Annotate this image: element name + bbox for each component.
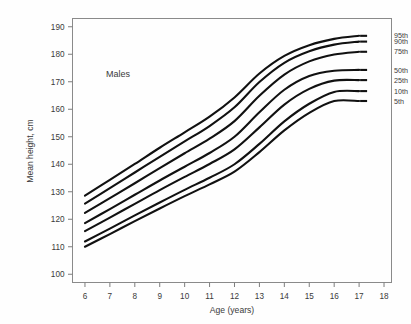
y-tick-label: 140 <box>51 160 65 169</box>
legend-label-50th: 50th <box>394 66 408 75</box>
percentile-legend: 95th90th75th50th25th10th5th <box>360 31 408 105</box>
legend-label-25th: 25th <box>394 76 408 85</box>
y-tick-label: 150 <box>51 133 65 142</box>
y-tick-label: 100 <box>51 270 65 279</box>
y-axis-tick-labels: 100110120130140150160170180190 <box>51 23 65 280</box>
percentile-curves <box>85 36 359 247</box>
y-tick-label: 180 <box>51 50 65 59</box>
legend-label-75th: 75th <box>394 47 408 56</box>
x-tick-label: 6 <box>83 292 88 301</box>
x-tick-label: 12 <box>230 292 240 301</box>
x-tick-label: 16 <box>330 292 340 301</box>
x-tick-label: 18 <box>379 292 389 301</box>
x-tick-label: 15 <box>305 292 315 301</box>
y-tick-label: 170 <box>51 78 65 87</box>
legend-label-90th: 90th <box>394 37 408 46</box>
x-tick-label: 13 <box>255 292 265 301</box>
x-tick-label: 7 <box>108 292 113 301</box>
x-tick-label: 8 <box>133 292 138 301</box>
x-axis-tick-labels: 6789101112131415161718 <box>83 292 389 301</box>
x-tick-label: 11 <box>205 292 214 301</box>
y-tick-label: 160 <box>51 105 65 114</box>
y-axis-ticks <box>68 27 73 275</box>
y-tick-label: 120 <box>51 215 65 224</box>
percentile-curve-25th <box>85 80 359 231</box>
chart-figure: 100110120130140150160170180190 678910111… <box>0 0 411 324</box>
y-tick-label: 130 <box>51 188 65 197</box>
y-axis-title: Mean height, cm <box>25 119 35 183</box>
percentile-curve-5th <box>85 100 359 247</box>
legend-label-5th: 5th <box>394 97 404 106</box>
males-annotation: Males <box>106 69 131 79</box>
y-tick-label: 110 <box>51 243 64 252</box>
growth-chart-svg: 100110120130140150160170180190 678910111… <box>0 0 411 324</box>
x-tick-label: 14 <box>280 292 290 301</box>
x-tick-label: 17 <box>355 292 365 301</box>
x-tick-label: 10 <box>180 292 190 301</box>
x-axis-title: Age (years) <box>210 305 255 315</box>
percentile-curve-10th <box>85 91 359 242</box>
percentile-curve-50th <box>85 70 359 223</box>
x-tick-label: 9 <box>157 292 162 301</box>
legend-label-10th: 10th <box>394 87 408 96</box>
x-axis-ticks <box>85 283 384 288</box>
y-tick-label: 190 <box>51 23 65 32</box>
